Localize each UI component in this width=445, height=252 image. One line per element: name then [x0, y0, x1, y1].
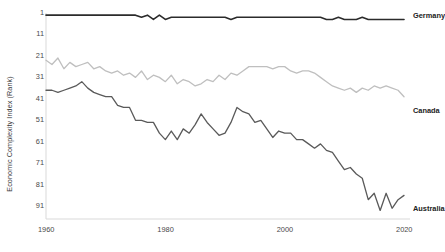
x-axis-tick-label: 1980	[157, 225, 173, 234]
x-axis-tick-label: 2020	[396, 225, 412, 234]
series-label-canada: Canada	[413, 106, 440, 115]
x-axis-tick-label: 2000	[277, 225, 293, 234]
x-axis-tick-label: 1960	[38, 225, 54, 234]
series-label-germany: Germany	[413, 11, 445, 20]
series-label-australia: Australia	[413, 204, 445, 213]
